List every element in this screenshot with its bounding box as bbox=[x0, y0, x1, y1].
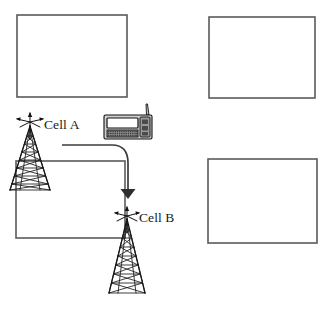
handover-arrow-head bbox=[121, 189, 136, 199]
cell-box-top-right bbox=[209, 17, 315, 98]
device-screen bbox=[107, 118, 138, 128]
antenna-cell-a-icon bbox=[16, 112, 44, 127]
cell-box-bottom-right bbox=[208, 159, 317, 243]
antenna-cell-b-icon bbox=[114, 206, 140, 221]
handover-arrow-path bbox=[62, 145, 128, 190]
mobile-communicator-device bbox=[104, 104, 152, 139]
device-antenna-icon bbox=[146, 104, 149, 115]
diagram-svg bbox=[0, 0, 329, 309]
device-side-button-mid bbox=[142, 126, 148, 131]
diagram-canvas: Cell A Cell B bbox=[0, 0, 329, 309]
device-side-button-bottom bbox=[142, 132, 148, 136]
device-side-button-top bbox=[142, 120, 148, 125]
label-cell-a: Cell A bbox=[44, 118, 79, 132]
cell-box-top-left bbox=[17, 15, 127, 97]
label-cell-b: Cell B bbox=[139, 211, 174, 225]
